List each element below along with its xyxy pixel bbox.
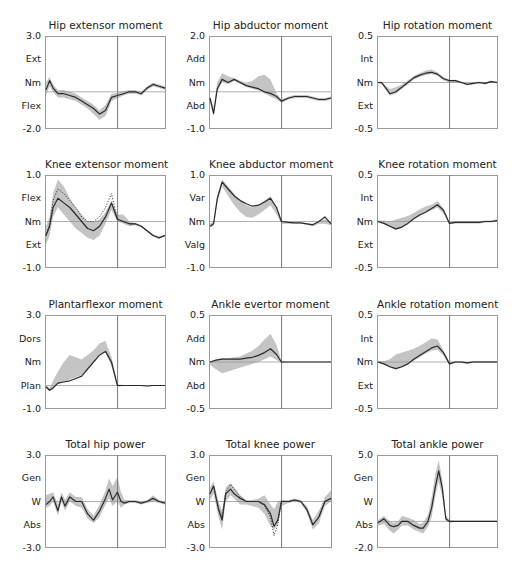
y-tick-label: Nm bbox=[1, 356, 41, 367]
mean-series-line bbox=[378, 471, 497, 528]
y-tick-label: Flex bbox=[1, 192, 41, 203]
y-tick-label: Nm bbox=[165, 356, 205, 367]
y-tick-label: Nm bbox=[333, 216, 373, 227]
normative-band bbox=[46, 77, 165, 120]
y-tick-label: -1.0 bbox=[1, 262, 41, 273]
plot-svg bbox=[377, 315, 498, 409]
y-tick-label: Nm bbox=[165, 77, 205, 88]
y-tick-label: Abd bbox=[165, 380, 205, 391]
y-tick-label: Ext bbox=[333, 100, 373, 111]
y-tick-label: -0.5 bbox=[333, 123, 373, 134]
normative-band bbox=[210, 180, 331, 228]
normative-band bbox=[46, 477, 165, 524]
plot-svg bbox=[45, 455, 166, 548]
y-tick-label: Plan bbox=[1, 380, 41, 391]
y-tick-label: 0.5 bbox=[333, 169, 373, 180]
y-tick-label: 1.0 bbox=[165, 169, 205, 180]
plot-svg bbox=[45, 36, 166, 129]
y-tick-label: 1.0 bbox=[1, 169, 41, 180]
normative-band bbox=[378, 460, 497, 533]
y-tick-label: -0.5 bbox=[333, 403, 373, 414]
y-tick-label: -3.0 bbox=[1, 542, 41, 553]
chart-title: Plantarflexor moment bbox=[45, 298, 166, 310]
normative-band bbox=[378, 339, 497, 370]
plot-svg bbox=[209, 175, 332, 268]
y-tick-label: W bbox=[165, 496, 205, 507]
y-tick-label: Gen bbox=[165, 472, 205, 483]
y-tick-label: Flex bbox=[1, 100, 41, 111]
y-tick-label: Abd bbox=[165, 100, 205, 111]
plot-svg bbox=[377, 36, 498, 129]
plot-svg bbox=[45, 315, 166, 409]
plot-svg bbox=[377, 455, 498, 548]
chart-title: Ankle evertor moment bbox=[209, 298, 332, 310]
y-tick-label: Int bbox=[333, 53, 373, 64]
y-tick-label: 3.0 bbox=[1, 30, 41, 41]
chart-title: Knee extensor moment bbox=[45, 158, 166, 170]
normative-band bbox=[46, 180, 165, 245]
y-tick-label: Nm bbox=[333, 356, 373, 367]
y-tick-label: 3.0 bbox=[1, 449, 41, 460]
y-tick-label: 0.5 bbox=[333, 30, 373, 41]
normative-band bbox=[210, 334, 331, 374]
y-tick-label: -1.0 bbox=[165, 262, 205, 273]
chart-title: Hip abductor moment bbox=[209, 19, 332, 31]
y-tick-label: Ext bbox=[333, 239, 373, 250]
y-tick-label: 5.0 bbox=[333, 449, 373, 460]
plot-svg bbox=[377, 175, 498, 268]
y-tick-label: Add bbox=[165, 53, 205, 64]
y-tick-label: -3.0 bbox=[165, 542, 205, 553]
y-tick-label: 0.5 bbox=[165, 309, 205, 320]
chart-title: Knee abductor moment bbox=[209, 158, 332, 170]
plot-svg bbox=[209, 315, 332, 409]
y-tick-label: Gen bbox=[1, 472, 41, 483]
y-tick-label: -0.5 bbox=[333, 262, 373, 273]
y-tick-label: Int bbox=[333, 192, 373, 203]
y-tick-label: 3.0 bbox=[165, 449, 205, 460]
y-tick-label: Var bbox=[165, 192, 205, 203]
y-tick-label: Dors bbox=[1, 333, 41, 344]
chart-title: Knee rotation moment bbox=[377, 158, 498, 170]
y-tick-label: 0.5 bbox=[333, 309, 373, 320]
normative-band bbox=[210, 73, 331, 116]
normative-band bbox=[46, 341, 165, 392]
y-tick-label: Add bbox=[165, 333, 205, 344]
y-tick-label: Abs bbox=[333, 519, 373, 530]
y-tick-label: Abs bbox=[1, 519, 41, 530]
chart-title: Total ankle power bbox=[377, 438, 498, 450]
y-tick-label: Ext bbox=[333, 380, 373, 391]
y-tick-label: -1.0 bbox=[165, 123, 205, 134]
y-tick-label: Nm bbox=[333, 77, 373, 88]
y-tick-label: Nm bbox=[1, 77, 41, 88]
y-tick-label: W bbox=[333, 496, 373, 507]
chart-title: Total knee power bbox=[209, 438, 332, 450]
y-tick-label: Nm bbox=[1, 216, 41, 227]
y-tick-label: W bbox=[1, 496, 41, 507]
y-tick-label: -1.0 bbox=[1, 403, 41, 414]
y-tick-label: Ext bbox=[1, 239, 41, 250]
y-tick-label: Valg bbox=[165, 239, 205, 250]
y-tick-label: Abs bbox=[165, 519, 205, 530]
y-tick-label: 3.0 bbox=[1, 309, 41, 320]
y-tick-label: -2.0 bbox=[333, 542, 373, 553]
y-tick-label: Ext bbox=[1, 53, 41, 64]
chart-title: Hip extensor moment bbox=[45, 19, 166, 31]
y-tick-label: -2.0 bbox=[1, 123, 41, 134]
chart-title: Hip rotation moment bbox=[377, 19, 498, 31]
plot-svg bbox=[209, 36, 332, 129]
plot-svg bbox=[45, 175, 166, 268]
y-tick-label: -0.5 bbox=[165, 403, 205, 414]
y-tick-label: 2.0 bbox=[165, 30, 205, 41]
y-tick-label: Nm bbox=[165, 216, 205, 227]
plot-svg bbox=[209, 455, 332, 548]
chart-title: Ankle rotation moment bbox=[377, 298, 498, 310]
y-tick-label: Int bbox=[333, 333, 373, 344]
y-tick-label: Gen bbox=[333, 472, 373, 483]
chart-title: Total hip power bbox=[45, 438, 166, 450]
